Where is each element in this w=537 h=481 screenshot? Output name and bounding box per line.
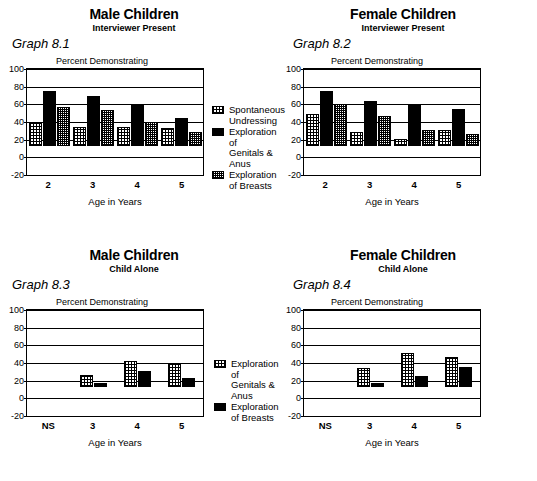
panel-subtitle: Interviewer Present bbox=[0, 22, 268, 33]
bar-group bbox=[392, 310, 436, 416]
bar bbox=[422, 130, 435, 145]
gridline bbox=[27, 175, 203, 176]
bar bbox=[306, 114, 319, 146]
bar bbox=[131, 105, 144, 146]
y-tick-label: -20 bbox=[11, 412, 24, 421]
panel-title: Female Children bbox=[269, 0, 537, 22]
bar bbox=[334, 104, 347, 146]
bar-group bbox=[159, 69, 203, 175]
graph-number: Graph 8.4 bbox=[269, 274, 537, 292]
y-tick-label: -20 bbox=[11, 171, 24, 180]
x-axis-ticks: NS345 bbox=[303, 420, 481, 431]
y-tick-label: 40 bbox=[14, 118, 24, 127]
legend-swatch-icon bbox=[212, 128, 224, 136]
x-axis-ticks: NS345 bbox=[26, 420, 204, 431]
x-tick-label: NS bbox=[26, 420, 71, 431]
y-tick-label: 20 bbox=[291, 135, 301, 144]
bar bbox=[182, 378, 195, 387]
figure-container: Male Children Interviewer Present Graph … bbox=[0, 0, 537, 481]
bar-group bbox=[115, 310, 159, 416]
bar-group bbox=[436, 310, 480, 416]
y-tick-label: 80 bbox=[291, 82, 301, 91]
bar bbox=[138, 371, 151, 386]
y-tick-mark bbox=[24, 175, 27, 176]
x-axis-title: Age in Years bbox=[303, 437, 481, 448]
y-tick-label: 60 bbox=[291, 100, 301, 109]
bar bbox=[124, 361, 137, 387]
y-tick-label: 40 bbox=[291, 118, 301, 127]
legend-swatch-icon bbox=[214, 403, 226, 411]
x-tick-label: 2 bbox=[303, 179, 348, 190]
bar bbox=[459, 367, 472, 387]
y-tick-mark bbox=[24, 416, 27, 417]
bar-group bbox=[348, 310, 392, 416]
x-tick-label: 2 bbox=[26, 179, 71, 190]
panel-title: Male Children bbox=[0, 0, 268, 22]
bar bbox=[466, 134, 479, 146]
bar bbox=[161, 128, 174, 146]
bar-group bbox=[71, 69, 115, 175]
bar-groups bbox=[27, 310, 203, 416]
x-tick-label: NS bbox=[303, 420, 348, 431]
y-tick-label: -20 bbox=[288, 171, 301, 180]
bar bbox=[57, 107, 70, 146]
bar bbox=[189, 132, 202, 146]
bar bbox=[408, 105, 421, 145]
y-axis-title: Percent Demonstrating bbox=[269, 51, 537, 66]
bar bbox=[87, 96, 100, 146]
bar-group bbox=[392, 69, 436, 175]
bar bbox=[445, 357, 458, 386]
chart-panel-3: Male Children Child Alone Graph 8.3 Perc… bbox=[0, 241, 268, 481]
bar bbox=[101, 110, 114, 146]
y-tick-label: 60 bbox=[14, 100, 24, 109]
bar-groups bbox=[304, 310, 480, 416]
plot-area: -20020406080100 bbox=[26, 309, 204, 417]
plot-wrapper: -20020406080100 NS345 Age in Years bbox=[303, 309, 537, 448]
bar bbox=[73, 127, 86, 146]
bar-group bbox=[115, 69, 159, 175]
gridline bbox=[27, 416, 203, 417]
bar bbox=[80, 375, 93, 387]
x-tick-label: 3 bbox=[71, 420, 116, 431]
chart-panel-2: Female Children Interviewer Present Grap… bbox=[269, 0, 537, 240]
y-tick-label: 100 bbox=[286, 65, 301, 74]
bar bbox=[394, 139, 407, 146]
bar bbox=[350, 132, 363, 146]
y-axis-title: Percent Demonstrating bbox=[0, 292, 268, 307]
x-tick-label: 4 bbox=[115, 179, 160, 190]
y-tick-label: 20 bbox=[14, 376, 24, 385]
y-tick-label: 40 bbox=[291, 359, 301, 368]
y-tick-label: 40 bbox=[14, 359, 24, 368]
bar-group bbox=[159, 310, 203, 416]
x-tick-label: 4 bbox=[392, 420, 437, 431]
legend-swatch-icon bbox=[214, 360, 226, 368]
x-axis-title: Age in Years bbox=[26, 437, 204, 448]
bar bbox=[371, 383, 384, 387]
x-axis-title: Age in Years bbox=[26, 196, 204, 207]
y-tick-label: 80 bbox=[14, 323, 24, 332]
x-tick-label: 3 bbox=[71, 179, 116, 190]
x-tick-label: 5 bbox=[160, 420, 205, 431]
x-tick-label: 4 bbox=[115, 420, 160, 431]
bar bbox=[452, 109, 465, 145]
panel-title: Male Children bbox=[0, 241, 268, 263]
panel-subtitle: Child Alone bbox=[269, 263, 537, 274]
bar bbox=[357, 368, 370, 387]
graph-number: Graph 8.3 bbox=[0, 274, 268, 292]
panel-subtitle: Interviewer Present bbox=[269, 22, 537, 33]
plot-area: -20020406080100 bbox=[303, 68, 481, 176]
x-axis-title: Age in Years bbox=[303, 196, 481, 207]
graph-number: Graph 8.1 bbox=[0, 33, 268, 51]
panel-title: Female Children bbox=[269, 241, 537, 263]
bar bbox=[320, 91, 333, 146]
bar bbox=[438, 130, 451, 146]
y-tick-label: 60 bbox=[291, 341, 301, 350]
bar-group bbox=[436, 69, 480, 175]
gridline bbox=[304, 416, 480, 417]
x-tick-label: 5 bbox=[437, 420, 482, 431]
bar bbox=[175, 118, 188, 145]
gridline bbox=[304, 175, 480, 176]
bar-group bbox=[71, 310, 115, 416]
chart-panel-1: Male Children Interviewer Present Graph … bbox=[0, 0, 268, 240]
legend-swatch-icon bbox=[212, 171, 224, 179]
